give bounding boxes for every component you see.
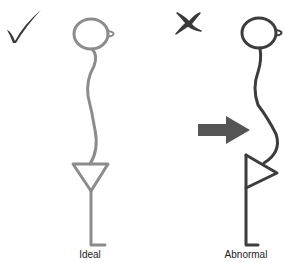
x-mark-icon [176,13,201,34]
posture-diagram [0,0,285,263]
ideal-pelvis-triangle [73,164,108,191]
abnormal-leg [246,155,258,245]
ideal-label: Ideal [79,249,101,260]
ideal-leg [91,191,105,245]
abnormal-figure [176,13,281,245]
ideal-head [74,19,108,49]
ideal-spine [88,49,97,164]
abnormal-spine [255,48,278,163]
right-arrow-icon [198,116,250,144]
ideal-figure [7,10,113,245]
check-mark-icon [7,10,41,43]
abnormal-label: Abnormal [225,249,268,260]
abnormal-pelvis-flag [246,155,277,188]
abnormal-head [242,18,276,48]
